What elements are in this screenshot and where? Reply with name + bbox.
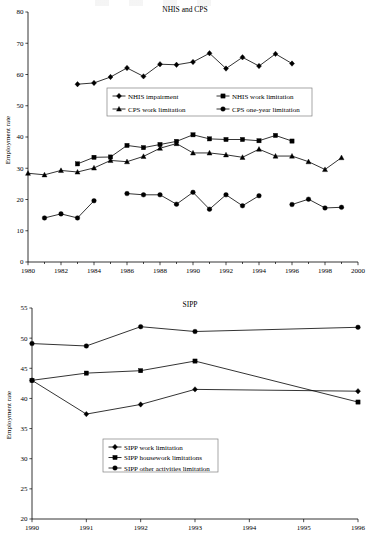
data-point: [141, 146, 145, 150]
x-tick-label: 1996: [351, 524, 366, 532]
data-point: [193, 329, 198, 334]
data-point: [273, 51, 278, 56]
x-tick-label: 1995: [297, 524, 312, 532]
legend-item[interactable]: SIPP other activities limitation: [109, 465, 211, 473]
series-sipp-other-activities-limitation: [30, 324, 361, 348]
series-sipp-work-limitation: [30, 378, 361, 417]
y-tick-label: 20: [21, 515, 29, 523]
legend-circle-marker: [113, 466, 118, 471]
data-point: [108, 74, 113, 79]
legend-label: SIPP work limitation: [124, 444, 183, 452]
data-point: [323, 167, 328, 172]
y-tick-label: 50: [17, 102, 25, 110]
series-sipp-housework-limitations: [30, 359, 360, 404]
x-tick-label: 1990: [186, 267, 201, 275]
y-tick-label: 0: [20, 258, 24, 266]
data-point: [257, 193, 262, 198]
series-polyline: [127, 192, 259, 209]
data-point: [84, 371, 88, 375]
data-point: [26, 171, 31, 176]
chart-nhis-and-cps: NHIS and CPS0102030405060708019801982198…: [0, 0, 371, 290]
data-point: [356, 325, 361, 330]
data-point: [306, 197, 311, 202]
data-point: [42, 216, 47, 221]
x-tick-label: 1994: [242, 524, 257, 532]
y-tick-label: 50: [21, 335, 29, 343]
data-point: [75, 216, 80, 221]
data-point: [92, 198, 97, 203]
chart-legend: NHIS impairmentNHIS work limitationCPS w…: [107, 88, 312, 116]
data-point: [141, 193, 146, 198]
data-point: [139, 369, 143, 373]
series-polyline: [45, 201, 95, 218]
data-point: [257, 147, 262, 152]
x-tick-label: 1993: [188, 524, 203, 532]
data-point: [191, 59, 196, 64]
x-tick-label: 1982: [54, 267, 69, 275]
x-tick-label: 1998: [318, 267, 333, 275]
data-point: [257, 139, 261, 143]
data-point: [174, 62, 179, 67]
series-polyline: [32, 380, 358, 414]
legend-square-marker: [113, 455, 117, 459]
y-tick-label: 40: [17, 133, 25, 141]
legend-label: NHIS work limitation: [232, 93, 294, 101]
data-point: [273, 133, 277, 137]
x-tick-label: 2000: [351, 267, 366, 275]
y-tick-label: 70: [17, 40, 25, 48]
series-nhis-impairment: [75, 51, 295, 87]
legend-label: SIPP other activities limitation: [124, 465, 210, 473]
legend-square-marker: [221, 94, 225, 98]
y-tick-label: 45: [21, 365, 29, 373]
data-point: [84, 411, 89, 416]
data-point: [193, 359, 197, 363]
data-point: [125, 191, 130, 196]
data-point: [141, 154, 146, 159]
data-point: [75, 162, 79, 166]
x-tick-label: 1988: [153, 267, 168, 275]
data-point: [138, 402, 143, 407]
chart-title: NHIS and CPS: [162, 5, 207, 14]
data-point: [339, 205, 344, 210]
data-point: [240, 203, 245, 208]
chart-sipp-canvas: SIPP202530354045505519901991199219931994…: [0, 290, 371, 555]
x-tick-label: 1980: [21, 267, 36, 275]
data-point: [138, 324, 143, 329]
y-tick-label: 10: [17, 227, 25, 235]
series-polyline: [32, 361, 358, 402]
x-tick-label: 1984: [87, 267, 102, 275]
data-point: [92, 80, 97, 85]
data-point: [207, 137, 211, 141]
figure-page: NHIS and CPS0102030405060708019801982198…: [0, 0, 371, 555]
chart-title: SIPP: [182, 300, 197, 309]
data-point: [224, 193, 229, 198]
data-point: [290, 139, 294, 143]
series-polyline: [292, 199, 342, 208]
data-point: [290, 61, 295, 66]
y-tick-label: 25: [21, 485, 29, 493]
y-tick-label: 35: [21, 425, 29, 433]
data-point: [75, 81, 80, 86]
legend-label: NHIS impairment: [128, 93, 178, 101]
data-point: [339, 155, 344, 160]
data-point: [240, 55, 245, 60]
x-tick-label: 1991: [79, 524, 94, 532]
legend-label: CPS one-year limitation: [232, 106, 300, 114]
data-point: [30, 341, 35, 346]
legend-circle-marker: [221, 107, 226, 112]
data-point: [191, 133, 195, 137]
x-tick-label: 1990: [25, 524, 40, 532]
chart-sipp: SIPP202530354045505519901991199219931994…: [0, 290, 371, 555]
data-point: [158, 193, 163, 198]
data-point: [125, 65, 130, 70]
y-tick-label: 80: [17, 8, 25, 16]
data-point: [356, 388, 361, 393]
data-point: [59, 212, 64, 217]
x-tick-label: 1994: [252, 267, 267, 275]
data-point: [240, 137, 244, 141]
y-tick-label: 40: [21, 395, 29, 403]
data-point: [224, 137, 228, 141]
data-point: [356, 400, 360, 404]
series-cps-work-limitation: [26, 141, 345, 177]
chart-legend: SIPP work limitationSIPP housework limit…: [103, 439, 218, 473]
